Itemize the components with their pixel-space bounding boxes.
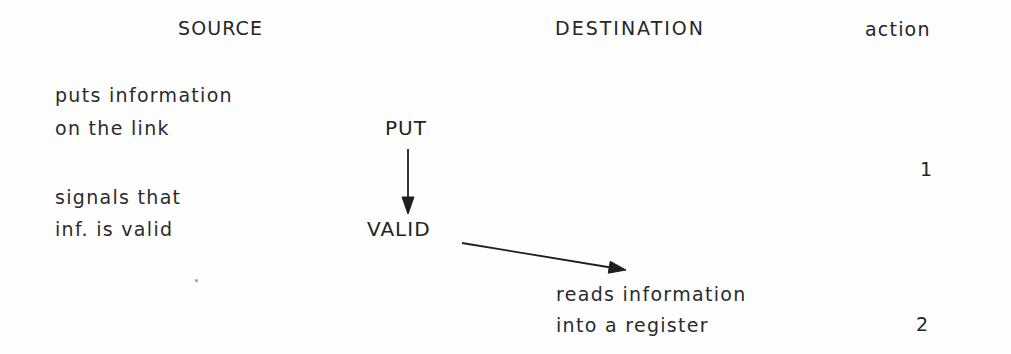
arrow-layer xyxy=(0,0,1011,354)
diagonal-arrow-valid-to-reads xyxy=(462,243,626,273)
diagonal-arrow-shaft xyxy=(462,243,609,267)
vertical-arrow-head xyxy=(402,197,414,214)
diagram-canvas: SOURCE DESTINATION action puts informati… xyxy=(0,0,1011,354)
diagonal-arrow-head xyxy=(608,261,626,273)
vertical-arrow-put-to-valid xyxy=(402,149,414,214)
scan-artifact-speck xyxy=(195,279,198,282)
